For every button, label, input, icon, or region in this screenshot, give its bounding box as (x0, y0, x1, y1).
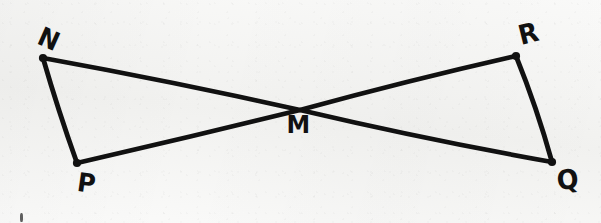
vertex-dot-n (39, 54, 47, 62)
stray-pencil-mark (20, 213, 23, 222)
diagram-canvas: N P M R Q (0, 0, 601, 223)
segment-n-p (43, 58, 77, 163)
vertex-dot-p (73, 159, 81, 167)
point-label-m: M (287, 112, 311, 137)
vertex-dot-r (512, 52, 520, 60)
segment-r-q (516, 56, 552, 162)
point-label-p: P (76, 169, 98, 197)
point-label-q: Q (555, 165, 580, 194)
